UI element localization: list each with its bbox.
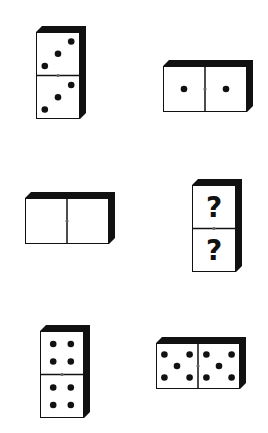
pip-dot <box>55 50 62 57</box>
pip-dot <box>42 106 49 113</box>
pip-dot <box>50 341 57 348</box>
pip-dot <box>68 82 75 89</box>
pip-dot <box>161 351 168 358</box>
pip-dot <box>68 384 75 391</box>
pip-dot <box>181 86 188 93</box>
pip-dot <box>50 358 57 365</box>
pip-dot <box>68 38 75 45</box>
pip-dot <box>55 94 62 101</box>
pip-dot <box>203 374 210 381</box>
pip-dot <box>228 374 235 381</box>
pip-dot <box>68 402 75 409</box>
pip-dot <box>50 384 57 391</box>
pip-dot <box>161 374 168 381</box>
pip-dot <box>223 86 230 93</box>
pip-dot <box>68 358 75 365</box>
domino-unknown-unknown: ?? <box>192 179 243 273</box>
domino-1-1 <box>163 60 254 113</box>
question-mark-icon: ? <box>206 191 222 224</box>
pip-dot <box>50 402 57 409</box>
question-mark-icon: ? <box>206 234 222 267</box>
pip-dot <box>42 63 49 70</box>
pip-dot <box>228 351 235 358</box>
domino-4-4 <box>40 325 91 419</box>
pip-dot <box>186 351 193 358</box>
pip-dot <box>203 351 210 358</box>
pip-dot <box>174 363 181 370</box>
domino-5-5 <box>156 337 247 390</box>
pip-dot <box>186 374 193 381</box>
domino-3-3 <box>36 26 87 120</box>
pip-dot <box>216 363 223 370</box>
domino-0-0 <box>25 192 116 245</box>
pip-dot <box>68 341 75 348</box>
